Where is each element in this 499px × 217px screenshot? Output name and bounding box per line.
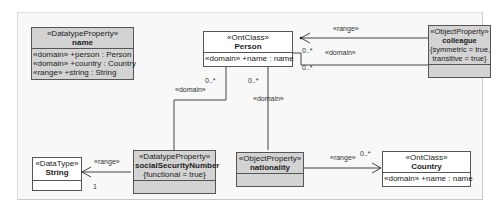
- edge-label-ssn-range: «range»: [94, 158, 120, 166]
- edge-label-ssn-domain: «domain»: [175, 86, 206, 94]
- multiplicity: 0..*: [302, 47, 313, 55]
- stereotype-label: «DatatypeProperty»: [135, 152, 214, 161]
- edge-label-colleague-domain: «domain»: [325, 49, 356, 57]
- multiplicity: 0..*: [205, 77, 216, 85]
- attribute: «domain» +country : Country: [33, 59, 132, 68]
- node-nationality-objectproperty[interactable]: «ObjectProperty» nationality: [236, 152, 304, 187]
- stereotype-label: «OntClass»: [205, 33, 291, 42]
- stereotype-label: «DataType»: [34, 159, 80, 168]
- attribute: «domain» +person : Person: [33, 50, 132, 59]
- edge-colleague-domain: [293, 53, 428, 65]
- edge-ssn-domain: [174, 67, 226, 150]
- constraint-text: transitive = true}: [430, 54, 489, 63]
- node-title: colleague: [430, 36, 489, 45]
- node-title: nationality: [238, 163, 302, 172]
- stereotype-label: «ObjectProperty»: [430, 27, 489, 36]
- node-string-datatype[interactable]: «DataType» String: [32, 157, 82, 191]
- constraint-text: {symmetric = true,: [430, 45, 489, 54]
- node-colleague-objectproperty[interactable]: «ObjectProperty» colleague {symmetric = …: [428, 25, 491, 78]
- multiplicity: 1: [93, 183, 97, 191]
- multiplicity: 0..*: [360, 150, 371, 158]
- attribute: «range» +string : String: [33, 68, 132, 77]
- stereotype-label: «ObjectProperty»: [238, 154, 302, 163]
- attribute: «domain» +name : name: [384, 174, 469, 183]
- node-title: name: [33, 38, 132, 47]
- node-ssn-datatypeproperty[interactable]: «DatatypeProperty» socialSecurityNumber …: [133, 150, 216, 194]
- edge-label-nationality-domain: «domain»: [253, 95, 284, 103]
- node-person-ontclass[interactable]: «OntClass» Person «domain» +name : name: [203, 31, 293, 67]
- stereotype-label: «DatatypeProperty»: [33, 29, 132, 38]
- stereotype-label: «OntClass»: [384, 153, 469, 162]
- multiplicity: 0..*: [248, 77, 259, 85]
- node-country-ontclass[interactable]: «OntClass» Country «domain» +name : name: [382, 151, 471, 187]
- node-title: Person: [205, 42, 291, 51]
- constraint-text: {functional = true}: [135, 170, 214, 179]
- connector-dot: [300, 37, 303, 40]
- node-title: String: [34, 168, 80, 177]
- multiplicity: 0..*: [302, 64, 313, 72]
- node-name-datatypeproperty[interactable]: «DatatypeProperty» name «domain» +person…: [31, 27, 134, 80]
- edge-label-colleague-range: «range»: [333, 25, 359, 33]
- node-title: Country: [384, 162, 469, 171]
- attribute: «domain» +name : name: [205, 54, 291, 63]
- node-title: socialSecurityNumber: [135, 161, 214, 170]
- edge-label-nationality-range: «range»: [330, 154, 356, 162]
